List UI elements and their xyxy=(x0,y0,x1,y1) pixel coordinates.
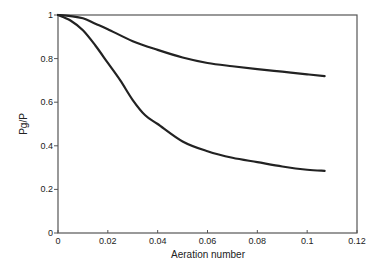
x-tick-label: 0.04 xyxy=(149,236,167,246)
x-axis-label: Aeration number xyxy=(171,249,246,260)
x-tick-label: 0.12 xyxy=(348,236,366,246)
x-tick-label: 0.1 xyxy=(301,236,314,246)
y-tick-label: 0 xyxy=(48,228,53,238)
lower-curve xyxy=(58,15,325,171)
y-tick-label: 0.8 xyxy=(40,54,53,64)
y-tick-label: 0.4 xyxy=(40,141,53,151)
y-axis-ticks: 00.20.40.60.81 xyxy=(40,10,58,238)
plot-border xyxy=(58,15,357,233)
y-tick-label: 1 xyxy=(48,10,53,20)
line-chart: 00.020.040.060.080.10.12 00.20.40.60.81 … xyxy=(0,0,385,274)
x-tick-label: 0.06 xyxy=(199,236,217,246)
y-tick-label: 0.2 xyxy=(40,184,53,194)
x-axis-ticks: 00.020.040.060.080.10.12 xyxy=(55,230,365,246)
series-layer xyxy=(58,15,325,171)
x-tick-label: 0.08 xyxy=(249,236,267,246)
upper-curve xyxy=(58,15,325,76)
x-tick-label: 0.02 xyxy=(99,236,117,246)
y-tick-label: 0.6 xyxy=(40,97,53,107)
plot-frame xyxy=(58,15,357,233)
x-tick-label: 0 xyxy=(55,236,60,246)
y-axis-label: Pg/P xyxy=(18,113,29,135)
